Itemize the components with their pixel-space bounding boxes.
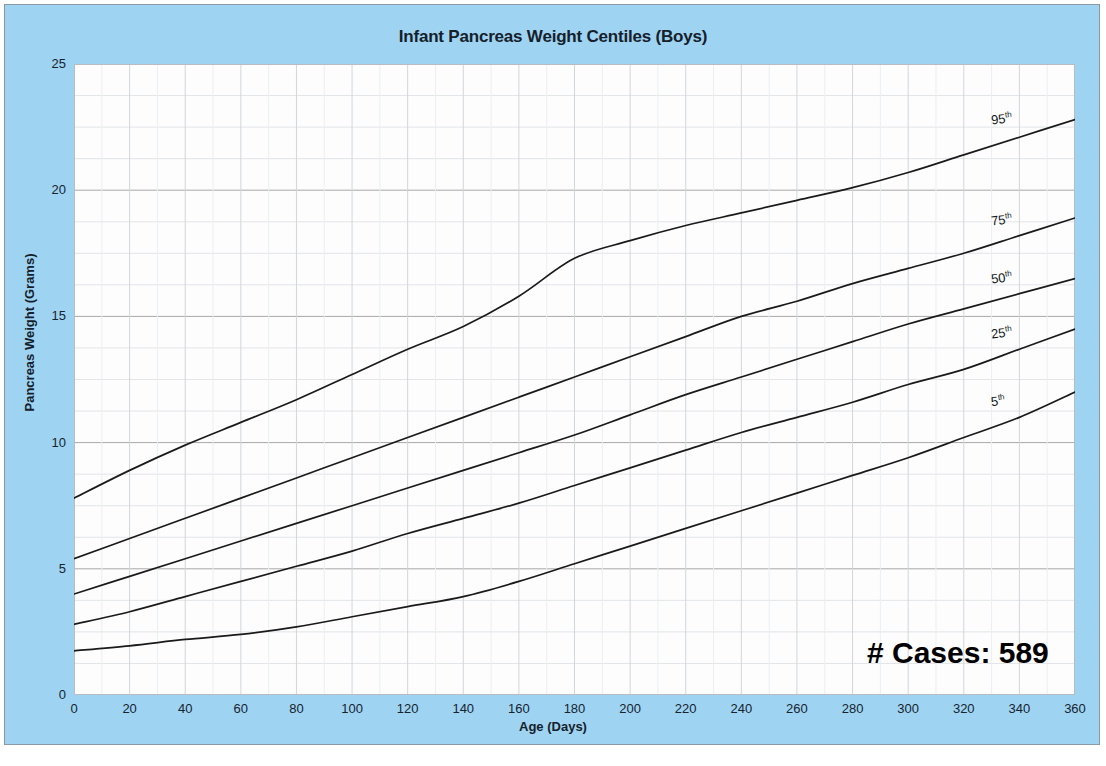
series-label-50th: 50th bbox=[991, 268, 1014, 286]
series-label-suffix: th bbox=[1005, 324, 1013, 334]
x-axis-title: Age (Days) bbox=[5, 719, 1101, 734]
case-count-annotation: # Cases: 589 bbox=[867, 636, 1049, 670]
series-label-suffix: th bbox=[1005, 110, 1013, 120]
x-tick-label-140: 140 bbox=[438, 701, 488, 716]
series-label-5th: 5th bbox=[990, 393, 1006, 410]
x-tick-label-260: 260 bbox=[772, 701, 822, 716]
series-label-75th: 75th bbox=[991, 210, 1014, 228]
x-tick-label-40: 40 bbox=[160, 701, 210, 716]
y-tick-label-5: 5 bbox=[26, 561, 66, 576]
y-tick-label-25: 25 bbox=[26, 56, 66, 71]
y-tick-label-20: 20 bbox=[26, 182, 66, 197]
x-tick-label-200: 200 bbox=[605, 701, 655, 716]
chart-title: Infant Pancreas Weight Centiles (Boys) bbox=[5, 27, 1101, 47]
x-tick-label-340: 340 bbox=[994, 701, 1044, 716]
x-tick-label-80: 80 bbox=[271, 701, 321, 716]
x-tick-label-20: 20 bbox=[105, 701, 155, 716]
centile-curves-svg bbox=[74, 64, 1075, 695]
chart-panel: Infant Pancreas Weight Centiles (Boys) P… bbox=[4, 4, 1100, 745]
x-tick-label-280: 280 bbox=[828, 701, 878, 716]
x-tick-label-60: 60 bbox=[216, 701, 266, 716]
y-tick-label-15: 15 bbox=[26, 308, 66, 323]
y-tick-label-10: 10 bbox=[26, 435, 66, 450]
series-label-suffix: th bbox=[998, 393, 1006, 403]
series-label-25th: 25th bbox=[991, 324, 1014, 342]
x-tick-label-180: 180 bbox=[550, 701, 600, 716]
series-label-95th: 95th bbox=[991, 110, 1014, 128]
plot-area bbox=[74, 64, 1075, 695]
x-tick-label-100: 100 bbox=[327, 701, 377, 716]
x-tick-label-240: 240 bbox=[716, 701, 766, 716]
x-tick-label-120: 120 bbox=[383, 701, 433, 716]
x-tick-label-160: 160 bbox=[494, 701, 544, 716]
y-tick-label-0: 0 bbox=[26, 687, 66, 702]
x-tick-label-360: 360 bbox=[1050, 701, 1100, 716]
x-tick-label-220: 220 bbox=[661, 701, 711, 716]
x-tick-label-300: 300 bbox=[883, 701, 933, 716]
x-tick-label-0: 0 bbox=[49, 701, 99, 716]
x-tick-label-320: 320 bbox=[939, 701, 989, 716]
